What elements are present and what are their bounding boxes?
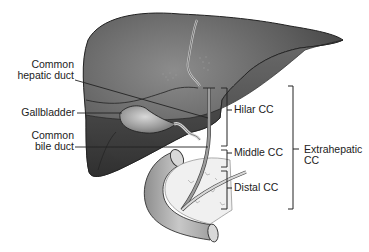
label-hilar-cc: Hilar CC — [234, 104, 274, 115]
cholangiocarcinoma-diagram: Common hepatic duct Gallbladder Common b… — [0, 0, 369, 252]
anatomy-illustration — [0, 0, 369, 252]
label-distal-cc: Distal CC — [234, 182, 278, 193]
label-extrahepatic-cc: Extrahepatic CC — [304, 144, 362, 166]
label-common-hepatic-duct: Common hepatic duct — [2, 59, 74, 81]
label-middle-cc: Middle CC — [234, 147, 283, 158]
label-common-bile-duct: Common bile duct — [2, 130, 74, 152]
label-gallbladder: Gallbladder — [2, 107, 75, 118]
